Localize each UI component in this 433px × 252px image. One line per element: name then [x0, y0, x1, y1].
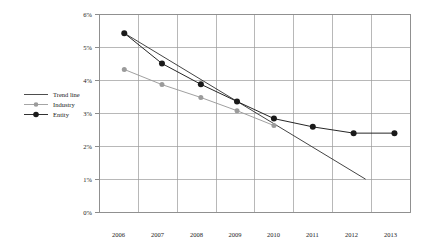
x-tick-label-2007: 2007 [151, 231, 165, 238]
y-tick-label-0pct: 0% [83, 209, 92, 216]
x-tick-label-2009: 2009 [229, 231, 242, 238]
x-axis-labels: 2006 2007 2008 2009 2010 2011 2012 2013 [112, 231, 397, 238]
legend-marker-dot-industry [34, 102, 39, 107]
y-tick-label-5pct: 5% [83, 44, 92, 51]
legend-label-entity: Entity [53, 111, 70, 118]
y-tick-label-4pct: 4% [83, 77, 92, 84]
y-tick-label-1pct: 1% [83, 176, 92, 183]
legend-marker-dot-entity [33, 112, 39, 118]
data-point [235, 108, 240, 113]
data-point [122, 67, 127, 72]
data-point [271, 116, 277, 122]
x-tick-label-2008: 2008 [190, 231, 203, 238]
line-chart: 6% 5% 4% 3% 2% 1% 0% 2006 2007 2008 2009… [0, 0, 433, 252]
x-tick-label-2012: 2012 [345, 231, 358, 238]
legend-label-industry: Industry [53, 101, 75, 108]
legend-item-entity: Entity [24, 111, 70, 118]
legend-item-trend-line: Trend line [24, 91, 80, 98]
chart-canvas: 6% 5% 4% 3% 2% 1% 0% 2006 2007 2008 2009… [0, 0, 433, 252]
x-tick-label-2006: 2006 [112, 231, 126, 238]
data-point [159, 82, 164, 87]
x-tick-label-2011: 2011 [306, 231, 319, 238]
legend-item-industry: Industry [24, 101, 75, 108]
data-point [121, 30, 127, 36]
data-point [271, 123, 276, 128]
y-tick-label-3pct: 3% [83, 110, 92, 117]
legend-label-trend-line: Trend line [53, 91, 80, 98]
y-axis-labels: 6% 5% 4% 3% 2% 1% 0% [83, 11, 92, 216]
y-tick-label-6pct: 6% [83, 11, 92, 18]
data-point [391, 130, 397, 136]
x-tick-label-2013: 2013 [384, 231, 397, 238]
x-tick-label-2010: 2010 [267, 231, 280, 238]
data-point [159, 61, 165, 67]
data-point [198, 81, 204, 87]
data-point [198, 95, 203, 100]
data-point [351, 130, 357, 136]
data-point [310, 124, 316, 130]
y-axis-tickmarks [95, 14, 99, 212]
y-tick-label-2pct: 2% [83, 143, 92, 150]
chart-legend: Trend line Industry Entity [24, 91, 80, 118]
data-point [234, 98, 240, 104]
